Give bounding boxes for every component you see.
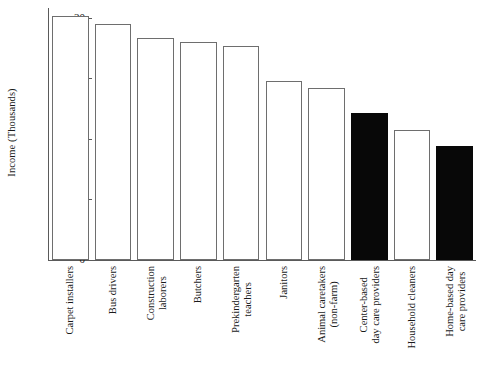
x-axis-label: Center-basedday care providers <box>358 266 381 344</box>
plot-area: 05101520 <box>48 8 476 261</box>
bar <box>180 42 217 260</box>
x-axis-label: Constructionlaborers <box>144 266 167 320</box>
bars-layer <box>49 8 476 260</box>
x-axis-label: Carpet installers <box>65 266 77 335</box>
x-axis-label-line: teachers <box>241 266 253 333</box>
x-axis-label-slot: Butchers <box>177 263 220 370</box>
y-axis-title: Income (Thousands) <box>0 0 22 265</box>
x-axis-label: Bus drivers <box>107 266 119 314</box>
bar <box>266 81 303 260</box>
y-tick-mark <box>88 260 92 261</box>
x-axis-label-line: Butchers <box>193 266 205 303</box>
bar <box>137 38 174 260</box>
x-axis-label-slot: Center-basedday care providers <box>348 263 391 370</box>
bar <box>436 146 473 260</box>
x-axis-label-line: Home-based day <box>443 266 455 337</box>
x-axis-label-line: Bus drivers <box>107 266 119 314</box>
x-axis-label-slot: Animal caretakers(non-farm) <box>305 263 348 370</box>
y-tick-0: 0 <box>48 260 92 261</box>
x-axis-label-line: Center-based <box>358 266 370 344</box>
x-axis-label: Prekindergartenteachers <box>230 266 253 333</box>
x-axis-label-slot: Prekindergartenteachers <box>220 263 263 370</box>
x-axis-label: Janitors <box>278 266 290 299</box>
bar <box>308 88 345 260</box>
bar <box>223 46 260 260</box>
x-axis-label-line: Animal caretakers <box>315 266 327 343</box>
x-axis-label-line: Household cleaners <box>406 266 418 349</box>
x-axis-label: Home-based daycare providers <box>443 266 466 337</box>
bar-chart: Income (Thousands) 05101520 Carpet insta… <box>0 0 477 370</box>
x-axis-label-line: Prekindergarten <box>230 266 242 333</box>
x-axis-label-slot: Janitors <box>263 263 306 370</box>
x-axis-label-slot: Carpet installers <box>49 263 92 370</box>
x-axis-label-line: (non-farm) <box>327 266 339 343</box>
x-axis-label-line: day care providers <box>369 266 381 344</box>
x-axis-label-slot: Home-based daycare providers <box>433 263 476 370</box>
y-axis-title-text: Income (Thousands) <box>6 88 17 176</box>
x-axis-line <box>48 260 476 261</box>
x-axis-category-labels: Carpet installersBus driversConstruction… <box>49 263 476 370</box>
x-axis-label-slot: Constructionlaborers <box>134 263 177 370</box>
bar <box>95 24 132 260</box>
x-axis-label-slot: Bus drivers <box>92 263 135 370</box>
x-axis-label-line: Carpet installers <box>65 266 77 335</box>
x-axis-label: Animal caretakers(non-farm) <box>315 266 338 343</box>
x-axis-label-line: care providers <box>455 266 467 337</box>
bar <box>351 113 388 260</box>
x-axis-label-line: Janitors <box>278 266 290 299</box>
x-axis-label: Household cleaners <box>406 266 418 349</box>
x-axis-label-slot: Household cleaners <box>391 263 434 370</box>
x-axis-label-line: Construction <box>144 266 156 320</box>
x-axis-label-line: laborers <box>156 266 168 320</box>
bar <box>394 130 431 260</box>
x-axis-label: Butchers <box>193 266 205 303</box>
bar <box>52 16 89 260</box>
